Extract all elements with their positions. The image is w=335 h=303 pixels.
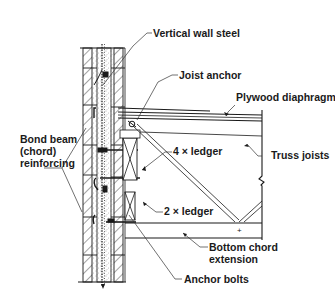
label-bond-beam-line2: (chord) xyxy=(20,145,56,157)
truss-joist: + xyxy=(125,110,264,240)
label-plywood-diaphragm: Plywood diaphragm xyxy=(236,91,335,103)
label-bond-beam: Bond beam (chord) reinforcing xyxy=(20,133,80,169)
construction-detail-diagram: + Vertical wall steel Joist anchor Plywo… xyxy=(0,0,335,303)
label-bottom-chord-line1: Bottom chord xyxy=(209,241,278,253)
plywood-diaphragm xyxy=(118,108,262,121)
label-truss-joists: Truss joists xyxy=(271,149,330,161)
label-joist-anchor: Joist anchor xyxy=(179,69,241,81)
label-bond-beam-line1: Bond beam xyxy=(20,133,77,145)
label-anchor-bolts: Anchor bolts xyxy=(184,273,249,285)
label-4x-ledger: 4 × ledger xyxy=(173,145,222,157)
label-vertical-wall-steel: Vertical wall steel xyxy=(153,27,240,39)
callout-labels: Vertical wall steel Joist anchor Plywood… xyxy=(20,27,335,285)
svg-text:+: + xyxy=(237,226,242,235)
label-2x-ledger: 2 × ledger xyxy=(164,205,213,217)
label-bottom-chord: Bottom chord extension xyxy=(209,241,281,265)
ledger-4x xyxy=(120,130,140,180)
label-bond-beam-line3: reinforcing xyxy=(20,157,75,169)
label-bottom-chord-line2: extension xyxy=(209,253,258,265)
